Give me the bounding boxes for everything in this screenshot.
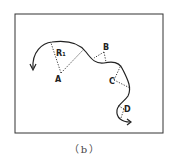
radius-line-b2 [104, 52, 106, 62]
curve-path [33, 41, 130, 122]
radius-line-b1 [94, 52, 104, 58]
radius-line-c1 [114, 65, 121, 80]
radius-line-a1 [51, 43, 61, 73]
curved-path-diagram: R₁ A B C D [0, 0, 170, 163]
label-c: C [109, 77, 115, 86]
figure-caption: （b） [0, 141, 170, 156]
label-a: A [55, 75, 62, 84]
diagram-frame [15, 14, 163, 133]
label-r1: R₁ [56, 49, 66, 58]
label-d: D [124, 105, 131, 114]
label-b: B [103, 43, 109, 52]
